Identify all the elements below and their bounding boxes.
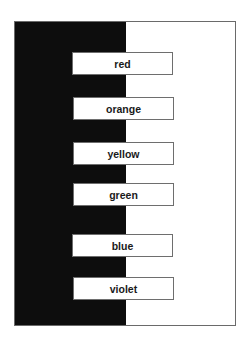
label-text: violet — [110, 283, 137, 295]
label-box-red: red — [72, 52, 173, 75]
label-text: orange — [106, 103, 141, 115]
label-box-orange: orange — [73, 97, 174, 120]
label-text: yellow — [107, 148, 139, 160]
label-text: green — [109, 189, 138, 201]
label-box-violet: violet — [73, 277, 174, 300]
label-box-blue: blue — [72, 234, 173, 257]
label-text: red — [114, 58, 130, 70]
label-box-green: green — [73, 183, 174, 206]
label-text: blue — [112, 240, 134, 252]
label-box-yellow: yellow — [73, 142, 174, 165]
